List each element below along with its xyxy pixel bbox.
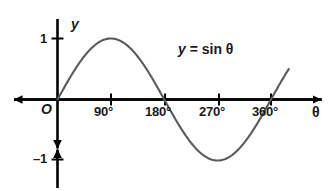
graph-canvas [0,0,334,191]
equation-annotation: y = sin θ [178,42,233,56]
y-axis-label: y [71,17,79,31]
x-tick-label-90: 90° [94,105,113,118]
x-axis-label: θ [312,105,320,119]
x-tick-label-360: 360° [252,105,278,118]
y-tick-label-minus-1: –1 [33,152,47,165]
x-tick-label-180: 180° [145,105,171,118]
equation-lhs: y [178,41,186,57]
x-tick-label-270: 270° [199,105,225,118]
equation-rhs: = sin θ [190,41,234,57]
y-tick-label-1: 1 [40,32,47,45]
sine-graph-figure: y θ O 1 –1 90° 180° 270° 360° y = sin θ [0,0,334,191]
origin-label: O [41,102,52,116]
